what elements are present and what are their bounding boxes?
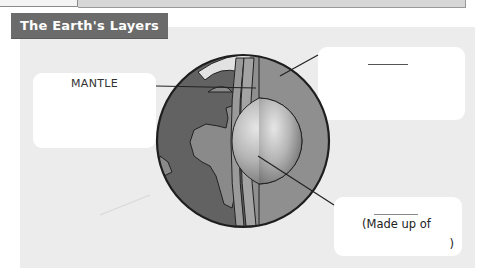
earth-cross-section bbox=[0, 0, 486, 279]
faint-guide-line bbox=[100, 195, 150, 215]
globe-surface bbox=[150, 50, 358, 240]
